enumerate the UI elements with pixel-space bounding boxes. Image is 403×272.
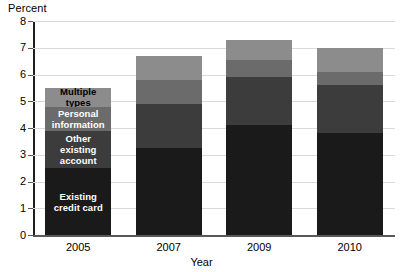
bar-segment[interactable]: [136, 56, 202, 80]
x-axis-line: [33, 235, 395, 237]
bar-segment[interactable]: [317, 85, 383, 133]
bar-segment[interactable]: [136, 104, 202, 148]
y-axis-tick-mark: [28, 21, 33, 22]
y-axis-tick-label: 3: [4, 149, 26, 160]
y-axis-tick-label: 6: [4, 69, 26, 80]
bar-2010[interactable]: [317, 21, 383, 235]
y-axis-tick-mark: [28, 48, 33, 49]
x-axis-tick-label-2005: 2005: [38, 241, 118, 254]
bar-segment[interactable]: Existing credit card: [45, 168, 111, 235]
y-axis-title: Percent: [8, 2, 47, 14]
bar-segment[interactable]: Multiple types: [45, 88, 111, 107]
bar-2005[interactable]: Existing credit cardOther existing accou…: [45, 21, 111, 235]
legend-label-existing-credit-card: Existing credit card: [52, 191, 105, 213]
y-axis-tick-mark: [28, 208, 33, 209]
legend-label-personal-information: Personal information: [50, 108, 107, 130]
bar-segment[interactable]: [226, 125, 292, 235]
y-axis-tick-label: 7: [4, 42, 26, 53]
bar-segment[interactable]: [317, 133, 383, 235]
bar-2007[interactable]: [136, 21, 202, 235]
y-axis-tick-label: 0: [4, 230, 26, 241]
y-axis-tick-mark: [28, 182, 33, 183]
bar-segment[interactable]: [317, 72, 383, 85]
bar-segment[interactable]: [226, 60, 292, 77]
bar-segment[interactable]: Personal information: [45, 107, 111, 131]
bar-segment[interactable]: [136, 148, 202, 235]
bar-segment[interactable]: [317, 48, 383, 72]
y-axis-tick-label: 4: [4, 123, 26, 134]
stacked-bar-chart: Percent Existing credit cardOther existi…: [0, 0, 403, 272]
bar-segment[interactable]: [136, 80, 202, 104]
y-axis-tick-mark: [28, 101, 33, 102]
y-axis-tick-label: 1: [4, 203, 26, 214]
y-axis-tick-mark: [28, 155, 33, 156]
x-axis-tick-label-2009: 2009: [219, 241, 299, 254]
legend-label-other-existing-account: Other existing account: [45, 133, 111, 166]
x-axis-tick-label-2007: 2007: [129, 241, 209, 254]
y-axis-tick-mark: [28, 235, 33, 236]
bar-segment[interactable]: Other existing account: [45, 131, 111, 168]
plot-area: Existing credit cardOther existing accou…: [33, 21, 395, 235]
x-axis-title: Year: [0, 256, 403, 268]
x-axis-tick-label-2010: 2010: [310, 241, 390, 254]
y-axis-tick-mark: [28, 128, 33, 129]
legend-label-multiple-types: Multiple types: [45, 88, 111, 107]
y-axis-tick-label: 8: [4, 16, 26, 27]
bar-2009[interactable]: [226, 21, 292, 235]
bar-segment[interactable]: [226, 40, 292, 60]
bar-segment[interactable]: [226, 77, 292, 125]
y-axis-tick-mark: [28, 75, 33, 76]
y-axis-tick-label: 5: [4, 96, 26, 107]
y-axis-tick-label: 2: [4, 176, 26, 187]
